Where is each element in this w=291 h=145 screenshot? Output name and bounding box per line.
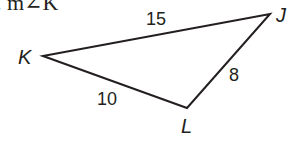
vertex-label-l: L: [181, 115, 192, 137]
vertex-label-j: J: [275, 4, 287, 26]
side-label-jl: 8: [229, 65, 239, 85]
triangle-diagram: K J L 15 8 10: [0, 0, 291, 145]
side-label-kj: 15: [146, 9, 166, 29]
side-label-kl: 10: [97, 89, 117, 109]
vertex-label-k: K: [18, 46, 33, 68]
